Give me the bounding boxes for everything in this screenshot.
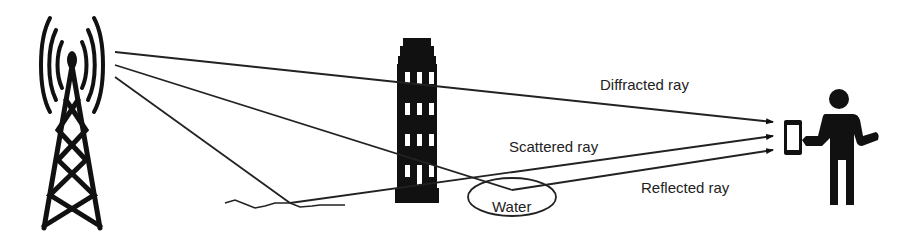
building-icon [395, 38, 439, 203]
propagation-diagram: Diffracted ray Scattered ray Reflected r… [0, 0, 919, 236]
diffracted-ray-label: Diffracted ray [600, 76, 689, 93]
water-label: Water [492, 198, 531, 215]
phone-icon [784, 120, 802, 155]
ground-surface [225, 200, 345, 208]
scattered-ray-incident [115, 77, 290, 203]
scattered-ray-label: Scattered ray [509, 138, 598, 155]
cell-tower-icon [41, 18, 103, 228]
reflected-ray-label: Reflected ray [641, 179, 729, 196]
person-icon [802, 89, 879, 205]
reflected-ray-incident [115, 65, 512, 190]
